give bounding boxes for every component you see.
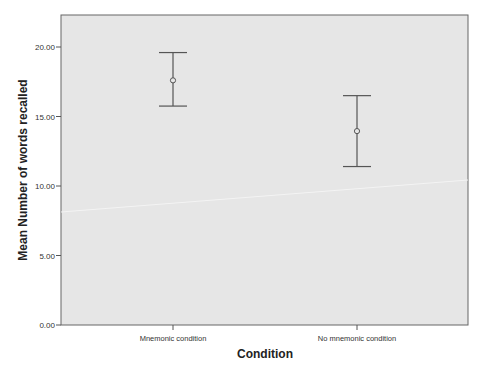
x-axis-title: Condition: [237, 347, 293, 361]
y-axis: 0.005.0010.0015.0020.00: [35, 43, 61, 330]
y-tick-label: 0.00: [39, 321, 55, 330]
mean-marker: [354, 128, 359, 133]
y-tick-label: 15.00: [35, 113, 56, 122]
x-tick-label: Mnemonic condition: [140, 334, 207, 343]
y-tick-label: 10.00: [35, 182, 56, 191]
mean-marker: [170, 78, 175, 83]
x-tick-label: No mnemonic condition: [318, 334, 396, 343]
error-bar-chart: 0.005.0010.0015.0020.00 Mnemonic conditi…: [0, 0, 486, 372]
y-axis-title: Mean Number of words recalled: [16, 79, 30, 260]
y-tick-label: 20.00: [35, 43, 56, 52]
x-axis: Mnemonic conditionNo mnemonic condition: [140, 325, 397, 343]
y-tick-label: 5.00: [39, 252, 55, 261]
plot-area: [61, 15, 468, 325]
